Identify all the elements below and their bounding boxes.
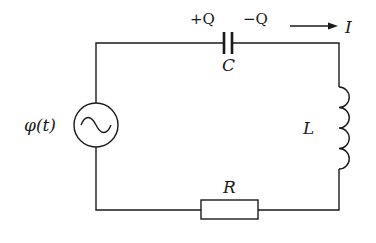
wire-bottom-right [258, 169, 339, 210]
sine-wave-icon [81, 118, 111, 133]
capacitor-minus-label: −Q [243, 10, 268, 28]
wire-bottom-left [96, 147, 201, 210]
resistor-box [201, 200, 258, 219]
capacitor [224, 32, 232, 54]
resistor-label: R [222, 177, 236, 197]
circuit-diagram: +Q −Q C I L R φ(t) [0, 0, 376, 243]
current-arrow [290, 23, 338, 30]
circuit-svg: +Q −Q C I L R φ(t) [0, 0, 376, 243]
arrow-head-icon [328, 23, 338, 30]
source-label: φ(t) [24, 115, 56, 135]
wire-top-left [96, 43, 224, 103]
current-label: I [344, 17, 352, 37]
capacitor-plus-label: +Q [190, 10, 215, 28]
ac-source [74, 103, 118, 147]
inductor-coil-icon [339, 87, 349, 169]
inductor-label: L [302, 118, 314, 138]
wire-top-right [232, 43, 339, 87]
capacitor-label: C [222, 55, 235, 75]
